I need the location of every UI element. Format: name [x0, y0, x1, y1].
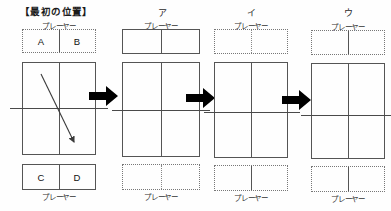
bench-cell-u-top-left	[312, 31, 348, 54]
transition-arrow-2-icon	[186, 86, 216, 110]
bench-cell-a-top-right	[161, 30, 199, 53]
transition-arrow-1-icon	[89, 84, 119, 108]
bench-top-initial: A B	[22, 29, 96, 53]
player-label-bottom-initial: プレーヤー	[22, 191, 96, 202]
bench-cell-u-bot-right	[348, 167, 384, 191]
bench-cell-u-bot-left	[312, 167, 348, 191]
court-center-line-i	[251, 63, 252, 157]
panel-title-u: ウ	[312, 6, 384, 19]
bench-cell-u-top-right	[348, 31, 384, 54]
bench-bottom-u	[311, 166, 385, 192]
panel-title-a: ア	[125, 6, 199, 19]
bench-cell-i-bot-right	[251, 166, 287, 190]
net-line-i	[204, 112, 300, 113]
bench-cell-a-top-left	[123, 30, 161, 53]
player-label-bottom-u: プレーヤー	[311, 193, 385, 204]
player-label-bottom-a: プレーヤー	[122, 191, 200, 202]
panel-title-i: イ	[216, 6, 286, 19]
net-line-u	[301, 115, 391, 116]
transition-arrow-3-icon	[282, 88, 312, 112]
bench-bottom-initial: C D	[22, 164, 96, 190]
bench-cell-b: B	[59, 30, 95, 52]
court-center-line-u	[348, 64, 349, 158]
court-u	[311, 63, 385, 159]
bench-bottom-i	[214, 165, 288, 191]
bench-cell-a-bot-left	[123, 165, 161, 189]
bench-cell-a-bot-right	[161, 165, 199, 189]
bench-top-i	[214, 29, 288, 54]
figure-canvas: 【最初の位置】 プレーヤー A B C D プレーヤー ア プレーヤー	[0, 0, 391, 211]
trajectory-arrow-initial	[22, 62, 98, 157]
court-i	[214, 62, 288, 158]
bench-top-a	[122, 29, 200, 54]
bench-bottom-a	[122, 164, 200, 190]
bench-top-u	[311, 30, 385, 55]
bench-cell-a: A	[23, 30, 59, 52]
net-line-a	[112, 110, 210, 111]
player-label-bottom-i: プレーヤー	[214, 192, 288, 203]
bench-cell-i-top-left	[215, 30, 251, 53]
bench-cell-d: D	[59, 165, 95, 189]
bench-cell-c: C	[23, 165, 59, 189]
bench-cell-i-top-right	[251, 30, 287, 53]
bench-cell-i-bot-left	[215, 166, 251, 190]
panel-title-initial: 【最初の位置】	[20, 4, 93, 18]
